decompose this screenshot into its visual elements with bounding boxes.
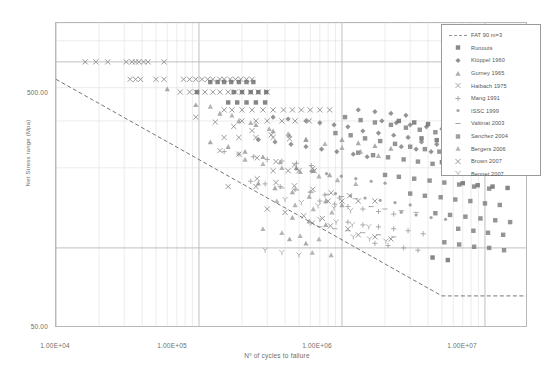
legend-item[interactable]: Runouts xyxy=(445,42,537,55)
x-axis-title: Nº of cycles to failure xyxy=(0,352,554,359)
legend-item[interactable]: Haibach 1975 xyxy=(445,79,537,92)
legend-item[interactable]: Valtinat 2003 xyxy=(445,117,537,130)
legend-item-label: Runouts xyxy=(471,45,493,51)
triangle-icon xyxy=(445,67,471,80)
diamond-icon xyxy=(445,54,471,67)
dashed-line-icon xyxy=(445,29,471,42)
x-icon xyxy=(445,79,471,92)
legend-item[interactable]: Klöppel 1960 xyxy=(445,54,537,67)
legend-item-label: Bergers 2006 xyxy=(471,146,506,152)
x-tick-label-1e5: 1.00E+05 xyxy=(142,342,202,349)
legend-item-label: FAT 90 m=3 xyxy=(471,32,502,38)
x-tick-label-1e4: 1.00E+04 xyxy=(25,342,85,349)
y-tick-label-lower: 50.00 xyxy=(0,323,48,330)
square-icon xyxy=(445,130,471,143)
square-icon xyxy=(445,42,471,55)
legend-item-label: Haibach 1975 xyxy=(471,83,507,89)
legend-item[interactable]: Gurney 1965 xyxy=(445,67,537,80)
x-tick-label-1e6: 1.00E+06 xyxy=(287,342,347,349)
chart-root: 500.00 50.00 Net Stress range (Mpa) 1.00… xyxy=(0,0,554,381)
dot-icon xyxy=(445,105,471,118)
legend-item-label: Valtinat 2003 xyxy=(471,120,505,126)
x-tick-label-1e7: 1.00E+07 xyxy=(432,342,492,349)
dash-icon xyxy=(445,117,471,130)
chart-legend: FAT 90 m=3RunoutsKlöppel 1960Gurney 1965… xyxy=(441,24,541,176)
legend-item[interactable]: FAT 90 m=3 xyxy=(445,29,537,42)
legend-item[interactable]: Sanchez 2004 xyxy=(445,130,537,143)
legend-item[interactable]: Bennet 2007 xyxy=(445,168,537,181)
plus-icon xyxy=(445,92,471,105)
y-tick-label-upper: 500.00 xyxy=(0,89,48,96)
legend-item[interactable]: Bergers 2006 xyxy=(445,142,537,155)
legend-item-label: Klöppel 1960 xyxy=(471,57,505,63)
legend-item-label: Gurney 1965 xyxy=(471,70,504,76)
legend-item-label: Bennet 2007 xyxy=(471,171,504,177)
legend-item[interactable]: Mang 1991 xyxy=(445,92,537,105)
legend-item-label: Sanchez 2004 xyxy=(471,133,508,139)
x-icon xyxy=(445,155,471,168)
legend-item[interactable]: Brown 2007 xyxy=(445,155,537,168)
legend-item[interactable]: ISSC 1999 xyxy=(445,105,537,118)
y-axis-title: Net Stress range (Mpa) xyxy=(25,93,31,213)
legend-item-label: Brown 2007 xyxy=(471,158,502,164)
y-icon xyxy=(445,168,471,181)
legend-item-label: Mang 1991 xyxy=(471,95,500,101)
triangle-icon xyxy=(445,142,471,155)
legend-item-label: ISSC 1999 xyxy=(471,108,499,114)
